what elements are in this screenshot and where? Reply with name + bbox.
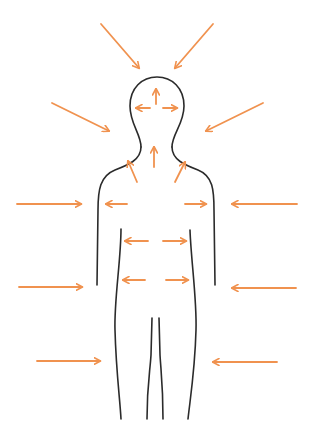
external-arrows: [17, 24, 297, 362]
right-shoulder-arm-outline: [172, 147, 215, 285]
arrow-icon: [128, 161, 137, 182]
head-outline: [130, 77, 184, 147]
arrow-icon: [206, 103, 263, 131]
body-outline: [97, 77, 215, 419]
body-diagram: [0, 0, 317, 435]
left-side-leg-outline: [115, 229, 121, 419]
arrow-icon: [52, 103, 109, 131]
right-inner-leg-outline: [159, 318, 163, 419]
left-inner-leg-outline: [147, 318, 152, 419]
arrow-icon: [175, 24, 213, 68]
right-side-leg-outline: [188, 230, 196, 419]
arrow-icon: [101, 24, 139, 68]
arrow-icon: [175, 162, 185, 182]
